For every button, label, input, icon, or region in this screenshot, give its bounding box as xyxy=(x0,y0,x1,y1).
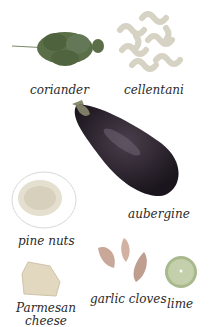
lime-label: lime xyxy=(167,298,193,311)
coriander-label: coriander xyxy=(30,84,89,97)
pine-nuts-label: pine nuts xyxy=(18,235,75,248)
coriander-image xyxy=(10,24,105,69)
cellentani-label: cellentani xyxy=(124,84,184,97)
garlic-cloves-label: garlic cloves xyxy=(90,293,167,306)
pine-nuts-image xyxy=(10,170,78,230)
parmesan-label-line2: cheese xyxy=(16,315,76,327)
cellentani-image xyxy=(112,10,184,75)
garlic-cloves-image xyxy=(96,236,156,286)
aubergine-image xyxy=(66,98,186,200)
parmesan-label: Parmesan cheese xyxy=(16,302,76,327)
lime-image xyxy=(164,255,200,291)
aubergine-label: aubergine xyxy=(128,208,190,221)
parmesan-image xyxy=(20,260,65,300)
